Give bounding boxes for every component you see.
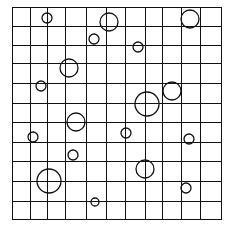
circle-marker [68, 150, 78, 160]
circle-marker [28, 132, 38, 142]
circle-marker [181, 183, 191, 193]
circle-marker [163, 82, 181, 100]
circle-marker [36, 81, 46, 91]
circle-marker [89, 34, 99, 44]
circle-marker [181, 10, 199, 28]
circle-marker [100, 13, 118, 31]
grid-diagram [0, 0, 225, 227]
circle-marker [133, 42, 143, 52]
circle-marker [60, 59, 78, 77]
circles [28, 10, 199, 206]
